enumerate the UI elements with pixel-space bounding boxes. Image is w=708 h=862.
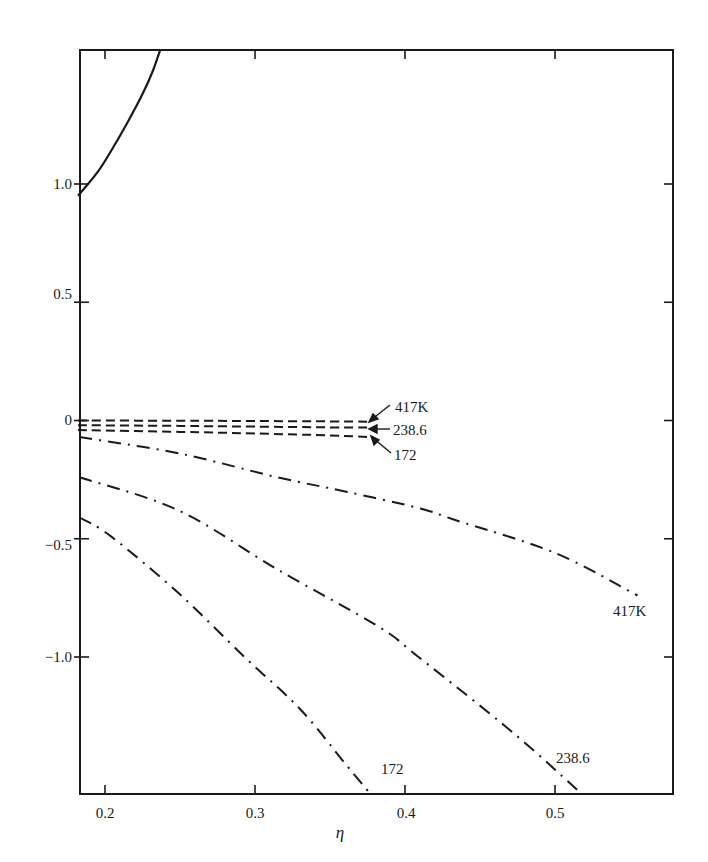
arrowhead-238 [369,425,377,433]
x-tick-label-0.2: 0.2 [96,805,115,821]
curve-238-6-dash-dot [80,477,583,794]
x-axis-title: η [336,823,344,842]
y-tick-label-neg0.5: −0.5 [45,537,72,553]
label-dashdot-172: 172 [381,761,404,777]
curve-238-6-dashed [78,425,368,427]
axis-ticks [74,50,673,794]
arrowhead-172 [371,436,379,445]
curve-417k-dashed [78,421,368,422]
label-dashed-417K: 417K [395,399,429,415]
label-dashed-238: 238.6 [393,422,427,438]
curve-solid [78,49,161,196]
label-dashdot-417K: 417K [613,603,647,619]
x-tick-label-0.4: 0.4 [397,805,416,821]
y-tick-label-0: 0 [65,412,73,428]
x-tick-label-0.3: 0.3 [246,805,265,821]
label-dashdot-238: 238.6 [556,750,590,766]
plot-frame [80,50,673,794]
y-tick-label-1.0: 1.0 [53,176,72,192]
curves [78,49,638,794]
curve-172-dashed [78,430,368,437]
curve-417k-dash-dot [80,437,638,595]
y-tick-label-neg1.0: −1.0 [45,649,72,665]
chart: 0.2 0.3 0.4 0.5 η 1.0 0.5 0 −0.5 −1.0 41… [0,0,708,862]
curve-172-dash-dot [80,518,371,795]
label-dashed-172: 172 [394,447,417,463]
y-tick-label-0.5: 0.5 [53,286,72,302]
x-tick-label-0.5: 0.5 [546,805,565,821]
label-arrows [369,405,391,453]
